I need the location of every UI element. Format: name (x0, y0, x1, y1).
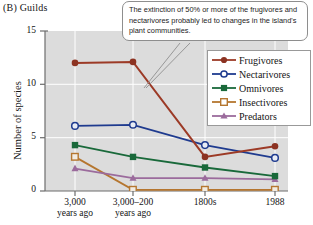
filled-square-icon (211, 82, 237, 94)
x-tick-label-2: 3,000–200 years ago (101, 197, 165, 219)
figure-panel-b-guilds: (B) Guilds (0, 0, 313, 225)
annotation-callout-text: The extinction of 50% or more of the fru… (129, 5, 297, 35)
legend-item-frugivores[interactable]: Frugivores (211, 53, 307, 67)
open-square-icon (211, 96, 237, 108)
legend-label-nectarivores: Nectarivores (237, 69, 290, 80)
x-tick-label-1: 3,000 years ago (43, 197, 107, 219)
open-circle-icon (211, 68, 237, 80)
legend-item-nectarivores[interactable]: Nectarivores (211, 67, 307, 81)
y-axis-ticks (40, 31, 45, 191)
filled-triangle-icon (211, 110, 237, 122)
chart-legend: Frugivores Nectarivores Omnivores Insect… (207, 50, 311, 126)
y-axis-label: Number of species (12, 81, 23, 160)
filled-circle-icon (211, 54, 237, 66)
x-axis-ticks (75, 191, 275, 196)
legend-item-predators[interactable]: Predators (211, 109, 307, 123)
annotation-callout: The extinction of 50% or more of the fru… (122, 1, 308, 41)
legend-item-omnivores[interactable]: Omnivores (211, 81, 307, 95)
y-tick-label-15: 15 (16, 25, 36, 35)
legend-label-frugivores: Frugivores (237, 55, 282, 66)
x-tick-label-4: 1988 (247, 197, 303, 208)
x-tick-label-3: 1800s (177, 197, 233, 208)
legend-item-insectivores[interactable]: Insectivores (211, 95, 307, 109)
legend-label-omnivores: Omnivores (237, 83, 283, 94)
legend-label-insectivores: Insectivores (237, 97, 287, 108)
legend-label-predators: Predators (237, 111, 277, 122)
y-tick-label-0: 0 (16, 184, 36, 194)
